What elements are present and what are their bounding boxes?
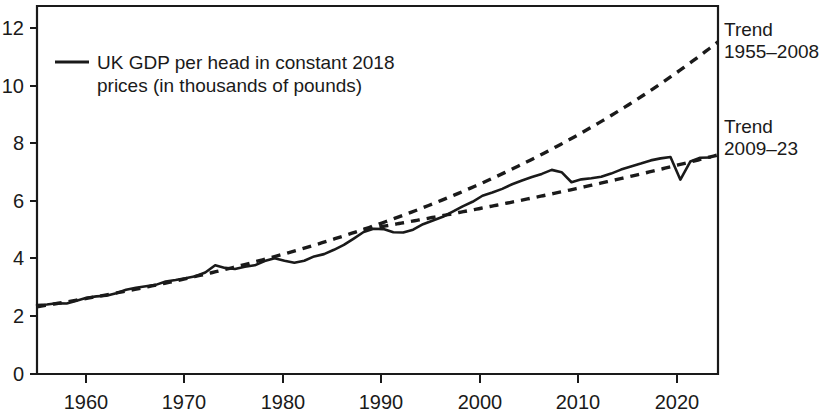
y-tick-label-8: 8 bbox=[13, 132, 24, 154]
chart-legend: UK GDP per head in constant 2018 prices … bbox=[55, 52, 395, 96]
uk-gdp-per-head-line bbox=[37, 157, 710, 305]
x-tick-label-1960: 1960 bbox=[64, 391, 109, 413]
x-tick-label-1980: 1980 bbox=[261, 391, 306, 413]
trend-1955-2008-label-line2: 1955–2008 bbox=[724, 41, 819, 62]
trend-2009-23-annotation: Trend 2009–23 bbox=[724, 116, 798, 159]
x-tick-label-2020: 2020 bbox=[655, 391, 700, 413]
legend-label-line2: prices (in thousands of pounds) bbox=[97, 75, 362, 96]
gdp-per-head-chart: 0 2 4 6 8 10 12 1960 1970 1980 1990 2000… bbox=[0, 0, 824, 420]
trend-2009-23-line bbox=[364, 155, 718, 230]
y-tick-label-0: 0 bbox=[13, 363, 24, 385]
x-tick-label-2000: 2000 bbox=[458, 391, 503, 413]
x-axis-ticks bbox=[86, 374, 677, 383]
x-tick-label-1970: 1970 bbox=[162, 391, 207, 413]
y-tick-label-12: 12 bbox=[2, 17, 24, 39]
y-tick-label-2: 2 bbox=[13, 305, 24, 327]
trend-1955-2008-label-line1: Trend bbox=[724, 19, 773, 40]
y-tick-label-10: 10 bbox=[2, 75, 24, 97]
x-tick-label-1990: 1990 bbox=[359, 391, 404, 413]
x-axis-tick-labels: 1960 1970 1980 1990 2000 2010 2020 bbox=[64, 391, 700, 413]
legend-label-line1: UK GDP per head in constant 2018 bbox=[97, 52, 395, 73]
trend-2009-23-label-line1: Trend bbox=[724, 116, 773, 137]
x-tick-label-2010: 2010 bbox=[556, 391, 601, 413]
trend-2009-23-label-line2: 2009–23 bbox=[724, 138, 798, 159]
chart-svg: 0 2 4 6 8 10 12 1960 1970 1980 1990 2000… bbox=[0, 0, 824, 420]
y-tick-label-6: 6 bbox=[13, 190, 24, 212]
y-tick-label-4: 4 bbox=[13, 247, 24, 269]
y-axis-tick-labels: 0 2 4 6 8 10 12 bbox=[2, 17, 24, 385]
trend-1955-2008-annotation: Trend 1955–2008 bbox=[724, 19, 819, 62]
